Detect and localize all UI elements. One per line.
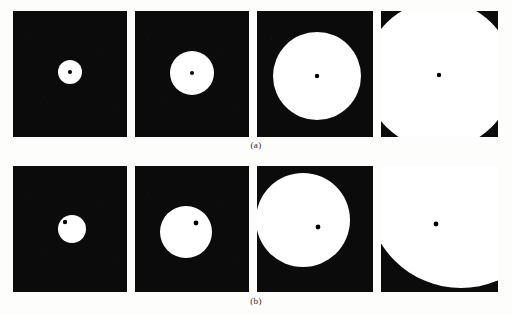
panel-b2-origin-marker	[194, 221, 199, 226]
panel-b4-disk	[381, 166, 498, 288]
panel-a4	[381, 11, 498, 137]
row-b-label: (b)	[0, 296, 512, 306]
row-a-label: (a)	[0, 140, 512, 150]
panel-b2-graphic	[135, 166, 249, 292]
panel-b3	[257, 166, 373, 292]
panel-a1-origin-marker	[68, 70, 72, 74]
figure-container: (a)(b)	[0, 0, 512, 315]
panel-b1	[13, 166, 127, 292]
panel-a4-graphic	[381, 11, 498, 137]
panel-b1-disk	[58, 215, 86, 243]
panel-b3-disk	[257, 173, 350, 267]
panel-a1	[13, 11, 127, 137]
panel-a3	[257, 11, 373, 137]
panel-b4-graphic	[381, 166, 498, 292]
panel-b4	[381, 166, 498, 292]
panel-a1-graphic	[13, 11, 127, 137]
panel-a3-origin-marker	[315, 74, 319, 78]
panel-b1-graphic	[13, 166, 127, 292]
panel-b2	[135, 166, 249, 292]
panel-b3-graphic	[257, 166, 373, 292]
panel-a2-graphic	[135, 11, 249, 137]
panel-a3-graphic	[257, 11, 373, 137]
panel-b1-origin-marker	[63, 220, 67, 224]
panel-a2	[135, 11, 249, 137]
panel-b3-origin-marker	[316, 225, 321, 230]
panel-b4-origin-marker	[434, 222, 439, 227]
panel-b2-disk	[160, 206, 212, 258]
panel-a2-origin-marker	[190, 71, 194, 75]
panel-a4-origin-marker	[437, 73, 441, 77]
